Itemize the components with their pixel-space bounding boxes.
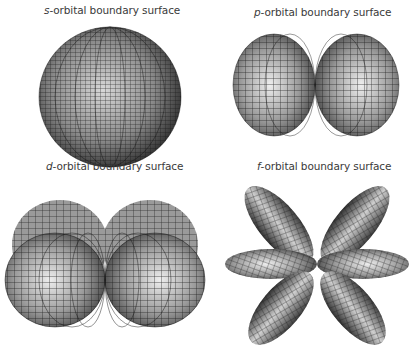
label-text: -orbital boundary surface	[49, 4, 180, 16]
orbital-letter: p	[254, 6, 261, 18]
orbital-letter: d	[46, 160, 53, 172]
label-text: -orbital boundary surface	[53, 160, 184, 172]
label-text: -orbital boundary surface	[261, 6, 392, 18]
d-orbital-label: d-orbital boundary surface	[46, 160, 183, 172]
s-orbital-sphere	[39, 27, 181, 167]
f-orbital-label: f-orbital boundary surface	[257, 160, 391, 172]
s-orbital-label: s-orbital boundary surface	[44, 4, 180, 16]
label-text: -orbital boundary surface	[261, 160, 392, 172]
p-orbital-label: p-orbital boundary surface	[254, 6, 391, 18]
orbital-figure	[0, 0, 419, 354]
d-orbital-lobes	[5, 200, 205, 327]
p-orbital-lobes	[233, 34, 399, 136]
f-orbital-lobes	[225, 175, 409, 354]
